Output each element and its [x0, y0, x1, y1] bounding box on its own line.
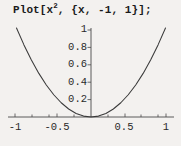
y-tick-label-1: 1 [47, 24, 87, 35]
code-text-suffix: , {x, -1, 1}]; [58, 4, 152, 16]
y-axis-ticks [88, 30, 92, 100]
y-tick-label-0-8: 0.8 [47, 42, 87, 53]
input-code-line[interactable]: Plot[x2, {x, -1, 1}]; [13, 3, 152, 17]
x-tick-label-0-5: 0.5 [98, 122, 150, 133]
x-tick-label-neg-1: -1 [0, 122, 30, 133]
x-tick-label-neg-0-5: -0.5 [31, 122, 83, 133]
y-tick-label-0-4: 0.4 [47, 77, 87, 88]
plot-output-graphic[interactable]: 1 0.8 0.6 0.4 0.2 -1 -0.5 0.5 1 [0, 22, 181, 146]
wolfram-notebook-cell: Plot[x2, {x, -1, 1}]; [0, 0, 181, 146]
code-text-prefix: Plot[x [13, 4, 53, 16]
y-tick-label-0-6: 0.6 [47, 59, 87, 70]
x-tick-label-1: 1 [152, 122, 180, 133]
y-tick-label-0-2: 0.2 [47, 94, 87, 105]
